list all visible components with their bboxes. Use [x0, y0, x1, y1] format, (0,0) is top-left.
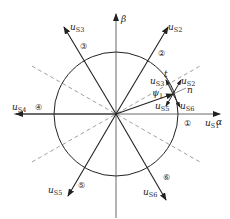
vector-us5 [68, 114, 116, 196]
tip-label-us2: uS2 [181, 76, 195, 88]
label-us5: uS5 [48, 185, 62, 197]
sector-6: ⑥ [163, 173, 170, 182]
tip-label-us6: uS6 [180, 101, 194, 113]
sector-5: ⑤ [78, 181, 85, 190]
label-us3: uS3 [70, 22, 84, 34]
sector-2: ② [158, 49, 165, 58]
label-us2: uS2 [168, 22, 182, 34]
voltage-vectors [16, 27, 173, 200]
sector-3: ③ [80, 42, 87, 51]
tip-label-us5: uS5 [155, 101, 169, 113]
space-vector-diagram: β α uS2 uS3 uS4 uS5 uS6 uS1 ③ ② ④ ① ⑤ ⑥ … [0, 0, 230, 219]
vector-us6 [116, 114, 166, 200]
label-us4: uS4 [12, 102, 26, 114]
beta-label: β [120, 14, 126, 24]
t-label: t [164, 69, 168, 79]
sector-4: ④ [35, 103, 42, 112]
tip-label-us3: uS3 [150, 76, 164, 88]
psi1-label: ψ1 [152, 88, 163, 100]
sector-1: ① [184, 119, 191, 128]
label-us6: uS6 [143, 187, 157, 199]
